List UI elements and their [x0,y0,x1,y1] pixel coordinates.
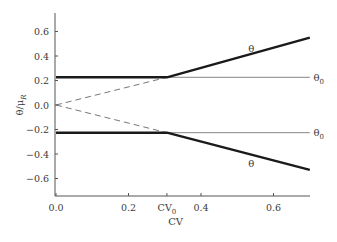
y-tick-label: 0.0 [34,100,49,111]
x-tick-label: CV0 [158,202,177,216]
x-tick-label: 0.2 [121,202,136,213]
y-axis-label: θ/μR [14,94,28,116]
y-tick-label: −0.6 [26,173,49,184]
y-tick-label: 0.6 [34,26,49,37]
theta0-upper-label: θ0 [313,72,324,86]
x-tick-label: 0.6 [266,202,281,213]
x-tick-label: 0.4 [193,202,208,213]
series-line--0-ramp-upper- [56,77,167,105]
y-tick-label: 0.2 [34,75,49,86]
y-tick-label: −0.2 [26,124,49,135]
theta0-lower-label: θ0 [313,127,324,141]
series-layer [56,38,310,170]
series-line--0-ramp-lower- [56,105,167,133]
y-tick-label: 0.4 [34,51,49,62]
series-line--lower- [56,133,310,170]
theta-lower-label: θ [248,158,254,169]
x-tick-label: 0.0 [48,202,63,213]
series-line--upper- [56,38,310,78]
axes: 0.60.40.20.0−0.2−0.4−0.60.00.2CV00.40.6C… [14,13,310,227]
annotations-layer: θθ0θ0θ [248,43,324,169]
x-axis-label: CV [168,216,184,227]
theta-upper-label: θ [248,43,254,54]
chart: 0.60.40.20.0−0.2−0.4−0.60.00.2CV00.40.6C… [0,0,337,242]
y-tick-label: −0.4 [26,149,49,160]
